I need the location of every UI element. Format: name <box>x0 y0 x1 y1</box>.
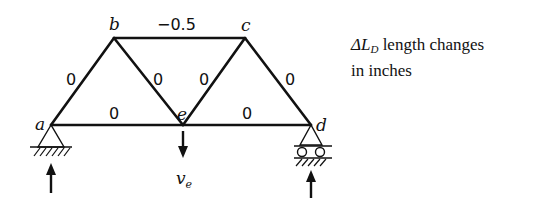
member-ab <box>51 38 114 125</box>
legend-line-1: ΔLD length changes <box>351 34 484 60</box>
value-bc: −0.5 <box>157 15 196 34</box>
value-ce: 0 <box>199 70 209 89</box>
legend: ΔLD length changes in inches <box>351 34 484 81</box>
value-ae: 0 <box>109 104 119 123</box>
load-label: ve <box>176 168 193 191</box>
value-be: 0 <box>153 70 163 89</box>
node-label-c: c <box>241 15 251 35</box>
node-label-e: e <box>177 104 187 124</box>
reaction-arrow-a-icon <box>46 163 56 193</box>
legend-line-2: in inches <box>351 60 484 81</box>
value-ab: 0 <box>66 70 76 89</box>
node-label-a: a <box>35 114 45 134</box>
legend-text-1: length changes <box>378 35 484 54</box>
node-label-d: d <box>316 115 327 135</box>
member-ce <box>183 38 245 125</box>
member-be <box>114 38 183 125</box>
value-cd: 0 <box>285 70 295 89</box>
truss-diagram: ve a b c d e 0 −0.5 0 0 0 0 0 <box>0 0 542 205</box>
node-label-b: b <box>109 14 120 34</box>
reaction-arrow-d-icon <box>306 170 316 198</box>
legend-symbol: ΔL <box>351 35 370 54</box>
member-cd <box>245 38 311 125</box>
value-ed: 0 <box>242 104 252 123</box>
load-arrow-down-icon <box>178 131 188 158</box>
